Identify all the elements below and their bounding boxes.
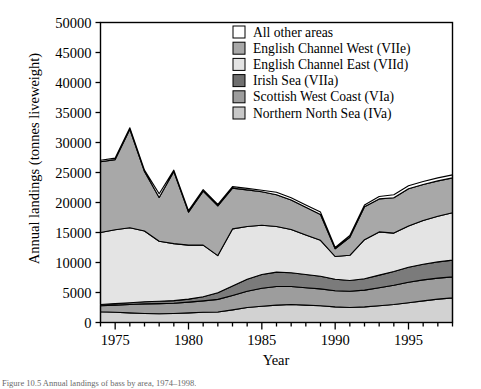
x-axis-title: Year	[100, 352, 452, 369]
svg-text:Scottish West Coast (VIa): Scottish West Coast (VIa)	[253, 89, 394, 105]
svg-text:20000: 20000	[55, 195, 91, 211]
svg-text:35000: 35000	[55, 105, 91, 121]
svg-text:1975: 1975	[101, 332, 130, 348]
figure-caption: Figure 10.5 Annual landings of bass by a…	[2, 378, 196, 388]
svg-text:English Channel East (VIId): English Channel East (VIId)	[253, 57, 408, 73]
svg-text:All other areas: All other areas	[253, 25, 333, 40]
svg-text:40000: 40000	[55, 75, 91, 91]
chart-legend: All other areasEnglish Channel West (VII…	[233, 25, 411, 122]
x-tick-labels: 19751980198519901995	[101, 332, 423, 348]
chart-plot-area	[101, 128, 453, 323]
stacked-area-chart: 19751980198519901995 0500010000150002000…	[0, 0, 481, 389]
svg-text:0: 0	[84, 315, 91, 331]
svg-text:English Channel West (VIIe): English Channel West (VIIe)	[253, 41, 411, 57]
svg-text:1985: 1985	[247, 332, 276, 348]
y-axis-title: Annual landings (tonnes liveweight)	[26, 29, 43, 289]
svg-text:1980: 1980	[174, 332, 203, 348]
svg-text:5000: 5000	[63, 285, 92, 301]
svg-text:Northern North Sea (IVa): Northern North Sea (IVa)	[253, 106, 392, 122]
svg-text:30000: 30000	[55, 135, 91, 151]
svg-text:50000: 50000	[55, 15, 91, 31]
svg-text:10000: 10000	[55, 255, 91, 271]
svg-text:45000: 45000	[55, 45, 91, 61]
y-tick-labels: 0500010000150002000025000300003500040000…	[55, 15, 91, 331]
svg-text:15000: 15000	[55, 225, 91, 241]
svg-text:1990: 1990	[321, 332, 350, 348]
svg-text:Irish Sea (VIIa): Irish Sea (VIIa)	[253, 73, 338, 89]
svg-text:25000: 25000	[55, 165, 91, 181]
svg-text:1995: 1995	[394, 332, 423, 348]
